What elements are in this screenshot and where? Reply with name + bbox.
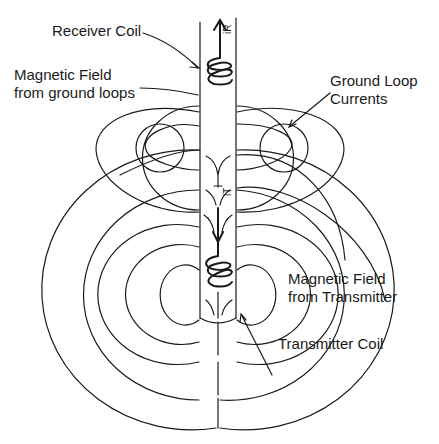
receiver-coil-label: Receiver Coil xyxy=(52,22,141,39)
field-ground-loops-label-line2: from ground loops xyxy=(14,84,135,101)
ground-loop-currents-label-line2: Currents xyxy=(330,90,388,107)
field-transmitter-label-line1: Magnetic Field xyxy=(288,270,386,287)
transmitter-coil-label: Transmitter Coil xyxy=(278,335,383,352)
leader-lines xyxy=(140,33,330,375)
ground-loop-field-left xyxy=(96,106,199,212)
receiver-current-symbol: iR xyxy=(222,25,233,34)
induction-logging-diagram: Receiver Coil Magnetic Field from ground… xyxy=(0,0,439,444)
transmitter-field-left xyxy=(42,150,216,430)
inner-field-lines xyxy=(204,156,232,242)
ground-loop-currents-label-line1: Ground Loop xyxy=(330,72,418,89)
transmitter-coil xyxy=(206,242,232,318)
field-transmitter-label-line2: from Transmitter xyxy=(288,288,397,305)
transmitter-current-symbol: iT xyxy=(222,188,233,196)
field-ground-loops-label-line1: Magnetic Field xyxy=(14,66,112,83)
